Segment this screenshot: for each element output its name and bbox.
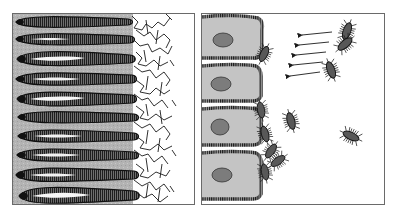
villus xyxy=(16,17,133,28)
villus xyxy=(17,149,139,161)
villus xyxy=(18,112,139,123)
villus xyxy=(17,92,137,106)
villus xyxy=(18,130,139,142)
left-panel xyxy=(13,14,195,205)
nucleus xyxy=(211,119,229,135)
epithelial-cell xyxy=(202,65,261,102)
epithelium-figure xyxy=(0,0,397,218)
villus xyxy=(17,52,135,66)
villus xyxy=(16,73,137,85)
nucleus xyxy=(213,33,233,47)
epithelial-cell xyxy=(202,108,261,146)
villus xyxy=(16,168,139,181)
right-panel xyxy=(202,14,385,205)
epithelial-cell xyxy=(202,16,262,58)
epithelial-cells xyxy=(202,16,262,199)
nucleus xyxy=(212,168,232,182)
villus xyxy=(16,34,135,45)
villus xyxy=(19,187,139,203)
epithelial-cell xyxy=(202,152,261,200)
nucleus xyxy=(211,77,231,91)
